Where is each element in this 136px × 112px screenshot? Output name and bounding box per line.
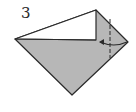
white-flap <box>15 10 96 40</box>
origami-diagram <box>0 0 136 112</box>
